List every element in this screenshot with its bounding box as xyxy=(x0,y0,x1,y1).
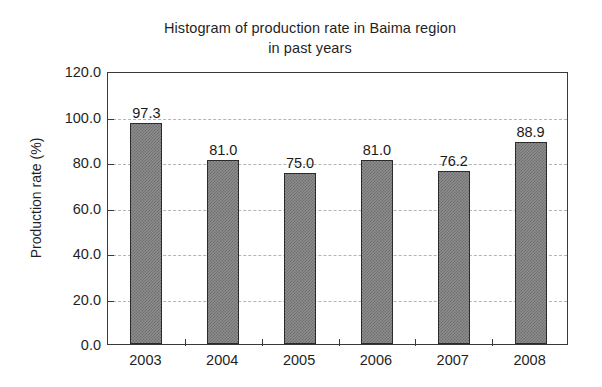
chart-title: Histogram of production rate in Baima re… xyxy=(60,18,560,58)
y-axis-tick-mark xyxy=(108,210,114,211)
x-axis-tick-label: 2004 xyxy=(206,352,238,368)
bar-value-label: 88.9 xyxy=(516,124,544,140)
plot-area: 97.381.075.081.076.288.9 xyxy=(107,72,568,345)
chart-title-line-2: in past years xyxy=(60,38,560,58)
y-axis-tick-mark xyxy=(108,301,114,302)
bar-value-label: 81.0 xyxy=(363,142,391,158)
x-axis-tick-label: 2006 xyxy=(360,352,392,368)
y-axis-tick-label: 120.0 xyxy=(37,64,101,80)
y-axis-tick-mark xyxy=(108,255,114,256)
bar xyxy=(284,173,316,344)
bar xyxy=(515,142,547,344)
x-axis-tick-label: 2003 xyxy=(129,352,161,368)
x-axis-tick-label: 2007 xyxy=(437,352,469,368)
x-axis-tick-label: 2005 xyxy=(283,352,315,368)
bar-value-label: 97.3 xyxy=(132,105,160,121)
gridline xyxy=(108,164,567,165)
x-axis-tick-mark xyxy=(492,339,493,346)
y-axis-tick-mark xyxy=(108,164,114,165)
gridline xyxy=(108,301,567,302)
x-axis-tick-mark xyxy=(339,339,340,346)
x-axis-tick-mark xyxy=(185,339,186,346)
gridline xyxy=(108,210,567,211)
y-axis-tick-mark xyxy=(108,119,114,120)
bar-value-label: 81.0 xyxy=(209,142,237,158)
bar xyxy=(130,123,162,344)
x-axis-tick-label: 2008 xyxy=(513,352,545,368)
gridline xyxy=(108,119,567,120)
y-axis-tick-label: 100.0 xyxy=(37,110,101,126)
x-axis-tick-mark xyxy=(262,339,263,346)
gridline xyxy=(108,255,567,256)
y-axis-tick-label: 60.0 xyxy=(37,201,101,217)
bar xyxy=(207,160,239,344)
y-axis-tick-label: 20.0 xyxy=(37,292,101,308)
bar xyxy=(438,171,470,344)
bar-value-label: 76.2 xyxy=(440,153,468,169)
y-axis-tick-label: 80.0 xyxy=(37,155,101,171)
chart-figure: Histogram of production rate in Baima re… xyxy=(0,0,602,387)
y-axis-tick-label: 40.0 xyxy=(37,246,101,262)
bar xyxy=(361,160,393,344)
chart-title-line-1: Histogram of production rate in Baima re… xyxy=(60,18,560,38)
y-axis-tick-label: 0.0 xyxy=(37,337,101,353)
x-axis-tick-mark xyxy=(415,339,416,346)
bar-value-label: 75.0 xyxy=(286,155,314,171)
